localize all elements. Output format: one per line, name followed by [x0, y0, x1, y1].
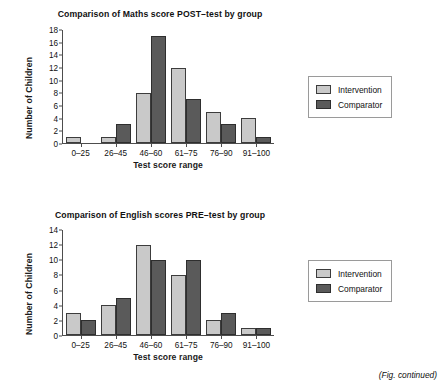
x-axis-line [62, 335, 274, 336]
y-tick-mark [59, 30, 62, 31]
y-tick-mark [59, 336, 62, 337]
y-tick-label: 10 [32, 256, 58, 265]
x-tick-label: 0–25 [63, 341, 98, 350]
x-tick-label: 91–100 [239, 341, 274, 350]
y-tick-label: 4 [32, 114, 58, 123]
y-tick-mark [59, 106, 62, 107]
x-tick-mark [221, 335, 222, 339]
y-tick-label: 16 [32, 38, 58, 47]
y-tick-mark [59, 93, 62, 94]
bar-group [169, 30, 204, 143]
bar-intervention [171, 275, 186, 335]
x-axis-line [62, 143, 274, 144]
plot-area: Number of Children 02468101214 0–2526–45… [24, 228, 274, 360]
y-tick-label: 12 [32, 241, 58, 250]
y-tick-mark [59, 245, 62, 246]
x-tick-label: 61–75 [169, 341, 204, 350]
chart-maths-post-test: Comparison of Maths score POST–test by g… [0, 0, 443, 195]
x-tick-label: 26–45 [98, 341, 133, 350]
bar-comparator [221, 313, 236, 336]
x-tick-mark [256, 335, 257, 339]
chart-title: Comparison of English scores PRE–test by… [0, 210, 320, 220]
x-tick-label: 91–100 [239, 149, 274, 158]
bar-intervention [241, 328, 256, 336]
x-axis-label: Test score range [62, 160, 274, 170]
bar-intervention [206, 112, 221, 143]
plot-area: Number of Children 024681012141618 0–252… [24, 28, 274, 168]
bar-comparator [221, 124, 236, 143]
x-tick-label: 76–90 [204, 341, 239, 350]
chart-legend: Intervention Comparator [308, 76, 392, 118]
bar-group [63, 230, 98, 335]
x-tick-label: 0–25 [63, 149, 98, 158]
y-tick-mark [59, 131, 62, 132]
bar-comparator [151, 36, 166, 143]
y-tick-label: 6 [32, 102, 58, 111]
bar-group [239, 230, 274, 335]
x-ticks: 0–2526–4546–6061–7576–9091–100 [63, 149, 274, 158]
bar-intervention [171, 68, 186, 143]
y-tick-label: 0 [32, 140, 58, 149]
bar-intervention [66, 137, 81, 143]
x-tick-mark [81, 143, 82, 147]
y-tick-mark [59, 68, 62, 69]
y-tick-mark [59, 290, 62, 291]
bar-comparator [81, 320, 96, 335]
bar-group [133, 30, 168, 143]
bar-comparator [116, 298, 131, 336]
bar-group [204, 30, 239, 143]
y-tick-mark [59, 42, 62, 43]
y-tick-label: 10 [32, 76, 58, 85]
bar-comparator [116, 124, 131, 143]
y-tick-label: 0 [32, 332, 58, 341]
x-tick-mark [116, 143, 117, 147]
y-tick-label: 8 [32, 89, 58, 98]
bar-intervention [101, 137, 116, 143]
bar-group [133, 230, 168, 335]
y-tick-mark [59, 275, 62, 276]
bar-comparator [186, 99, 201, 143]
y-tick-mark [59, 144, 62, 145]
y-tick-mark [59, 55, 62, 56]
y-tick-label: 18 [32, 26, 58, 35]
x-axis-label: Test score range [62, 352, 274, 362]
bar-group [98, 230, 133, 335]
bar-group [204, 230, 239, 335]
x-tick-mark [186, 143, 187, 147]
legend-label-comparator: Comparator [338, 100, 382, 110]
chart-english-pre-test: Comparison of English scores PRE–test by… [0, 196, 443, 385]
y-tick-label: 6 [32, 286, 58, 295]
x-tick-label: 26–45 [98, 149, 133, 158]
y-tick-mark [59, 230, 62, 231]
x-tick-mark [256, 143, 257, 147]
chart-legend: Intervention Comparator [308, 260, 392, 302]
bar-comparator [256, 328, 271, 336]
legend-item-comparator: Comparator [316, 97, 382, 112]
bar-intervention [206, 320, 221, 335]
legend-swatch-comparator-icon [316, 284, 331, 293]
axes: 024681012141618 [62, 30, 274, 144]
bar-intervention [136, 93, 151, 143]
y-tick-label: 8 [32, 271, 58, 280]
legend-swatch-intervention-icon [316, 85, 331, 94]
y-tick-label: 12 [32, 64, 58, 73]
bar-comparator [256, 137, 271, 143]
x-tick-label: 46–60 [133, 149, 168, 158]
y-tick-mark [59, 320, 62, 321]
bar-group [169, 230, 204, 335]
bar-group [98, 30, 133, 143]
x-tick-mark [116, 335, 117, 339]
x-tick-label: 46–60 [133, 341, 168, 350]
x-tick-label: 61–75 [169, 149, 204, 158]
legend-swatch-comparator-icon [316, 100, 331, 109]
x-tick-mark [151, 143, 152, 147]
x-tick-label: 76–90 [204, 149, 239, 158]
x-tick-mark [151, 335, 152, 339]
legend-item-comparator: Comparator [316, 281, 382, 296]
bar-intervention [241, 118, 256, 143]
bar-comparator [186, 260, 201, 335]
x-tick-mark [186, 335, 187, 339]
legend-item-intervention: Intervention [316, 266, 382, 281]
legend-label-intervention: Intervention [338, 85, 382, 95]
x-ticks: 0–2526–4546–6061–7576–9091–100 [63, 341, 274, 350]
